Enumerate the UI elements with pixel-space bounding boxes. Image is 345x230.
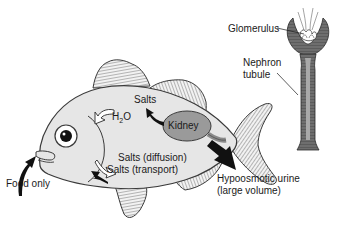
- nephron-label-line2: tubule: [243, 69, 270, 80]
- nephron-label-line1: Nephron: [243, 57, 281, 68]
- dorsal-fin-spiny: [93, 60, 150, 88]
- water-label: H2O: [112, 111, 131, 126]
- glomerulus-tuft: [298, 8, 318, 41]
- water-label-o: O: [123, 111, 131, 122]
- urine-label-line1: Hypoosmotic urine: [217, 173, 300, 184]
- salts-diffusion-label: Salts (diffusion): [118, 152, 187, 163]
- pelvic-fin: [115, 185, 147, 218]
- nephron-illustration: [287, 8, 329, 150]
- food-arrow: [18, 156, 36, 196]
- nephron-tubule-leader-line: [277, 73, 298, 95]
- salts-transport-label: Salts (transport): [107, 164, 178, 175]
- urine-label-line2: (large volume): [217, 185, 281, 196]
- fish-osmoregulation-diagram: [0, 0, 345, 230]
- eye: [55, 125, 77, 147]
- salts-reabsorbed-label: Salts: [134, 94, 156, 105]
- kidney-label: Kidney: [168, 120, 199, 131]
- food-label: Food only: [6, 178, 50, 189]
- glomerulus-label: Glomerulus: [228, 23, 279, 34]
